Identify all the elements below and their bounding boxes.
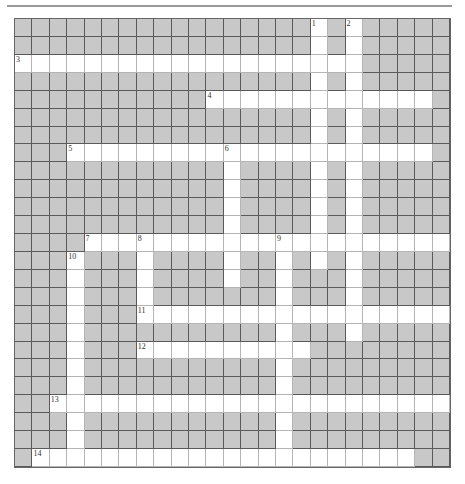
answer-cell[interactable]: 6 [224,144,241,162]
answer-cell[interactable] [363,234,380,252]
answer-cell[interactable] [259,234,276,252]
answer-cell[interactable] [224,162,241,180]
answer-cell[interactable] [67,306,84,324]
answer-cell[interactable] [346,91,363,109]
answer-cell[interactable] [206,55,223,73]
answer-cell[interactable] [276,55,293,73]
answer-cell[interactable]: 2 [346,19,363,37]
answer-cell[interactable] [154,306,171,324]
answer-cell[interactable] [102,144,119,162]
answer-cell[interactable] [137,288,154,306]
answer-cell[interactable] [172,342,189,360]
answer-cell[interactable] [172,449,189,467]
answer-cell[interactable] [311,55,328,73]
answer-cell[interactable] [311,216,328,234]
answer-cell[interactable] [293,91,310,109]
answer-cell[interactable] [137,252,154,270]
answer-cell[interactable] [293,342,310,360]
answer-cell[interactable] [154,449,171,467]
answer-cell[interactable]: 9 [276,234,293,252]
answer-cell[interactable] [311,395,328,413]
answer-cell[interactable] [363,395,380,413]
answer-cell[interactable] [67,270,84,288]
answer-cell[interactable] [328,144,345,162]
answer-cell[interactable] [102,234,119,252]
answer-cell[interactable] [311,180,328,198]
answer-cell[interactable] [398,395,415,413]
answer-cell[interactable] [67,288,84,306]
answer-cell[interactable] [137,144,154,162]
answer-cell[interactable] [380,395,397,413]
answer-cell[interactable] [67,413,84,431]
answer-cell[interactable] [380,306,397,324]
answer-cell[interactable] [328,234,345,252]
answer-cell[interactable] [363,91,380,109]
answer-cell[interactable] [224,216,241,234]
answer-cell[interactable] [346,306,363,324]
answer-cell[interactable] [276,288,293,306]
answer-cell[interactable]: 13 [50,395,67,413]
answer-cell[interactable] [67,342,84,360]
answer-cell[interactable] [276,359,293,377]
answer-cell[interactable] [276,377,293,395]
answer-cell[interactable] [276,413,293,431]
answer-cell[interactable] [311,109,328,127]
answer-cell[interactable] [311,127,328,145]
answer-cell[interactable] [276,144,293,162]
answer-cell[interactable]: 11 [137,306,154,324]
answer-cell[interactable] [189,306,206,324]
answer-cell[interactable] [224,198,241,216]
answer-cell[interactable] [50,55,67,73]
answer-cell[interactable] [259,306,276,324]
answer-cell[interactable] [346,180,363,198]
answer-cell[interactable] [276,270,293,288]
answer-cell[interactable] [433,395,450,413]
answer-cell[interactable] [346,73,363,91]
answer-cell[interactable] [259,91,276,109]
answer-cell[interactable] [311,144,328,162]
answer-cell[interactable] [50,449,67,467]
answer-cell[interactable] [172,306,189,324]
answer-cell[interactable] [189,55,206,73]
answer-cell[interactable] [241,395,258,413]
answer-cell[interactable] [346,252,363,270]
answer-cell[interactable] [346,216,363,234]
answer-cell[interactable] [380,449,397,467]
answer-cell[interactable] [119,395,136,413]
answer-cell[interactable] [224,55,241,73]
answer-cell[interactable] [433,306,450,324]
answer-cell[interactable] [241,91,258,109]
answer-cell[interactable] [137,270,154,288]
answer-cell[interactable] [67,431,84,449]
answer-cell[interactable] [172,395,189,413]
answer-cell[interactable] [259,342,276,360]
answer-cell[interactable] [276,91,293,109]
answer-cell[interactable] [119,144,136,162]
answer-cell[interactable] [172,234,189,252]
answer-cell[interactable] [398,234,415,252]
answer-cell[interactable] [380,91,397,109]
answer-cell[interactable] [363,144,380,162]
answer-cell[interactable] [154,395,171,413]
answer-cell[interactable] [293,395,310,413]
answer-cell[interactable]: 4 [206,91,223,109]
answer-cell[interactable] [346,270,363,288]
answer-cell[interactable] [102,55,119,73]
answer-cell[interactable] [206,234,223,252]
answer-cell[interactable] [241,55,258,73]
answer-cell[interactable] [172,144,189,162]
answer-cell[interactable] [224,252,241,270]
answer-cell[interactable] [137,395,154,413]
answer-cell[interactable] [189,342,206,360]
answer-cell[interactable] [398,306,415,324]
answer-cell[interactable] [363,449,380,467]
answer-cell[interactable] [398,449,415,467]
answer-cell[interactable] [224,270,241,288]
answer-cell[interactable] [276,252,293,270]
answer-cell[interactable] [259,144,276,162]
answer-cell[interactable] [311,306,328,324]
answer-cell[interactable] [346,324,363,342]
answer-cell[interactable] [311,449,328,467]
answer-cell[interactable] [415,234,432,252]
answer-cell[interactable]: 8 [137,234,154,252]
